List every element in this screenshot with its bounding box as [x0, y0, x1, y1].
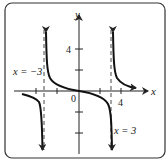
graph-canvas: y x 0 4 4 x = −3 x = 3: [0, 0, 168, 162]
asymptote-right-label: x = 3: [113, 125, 136, 136]
curve-branch-left: [22, 94, 43, 150]
curve-branch-right: [113, 32, 136, 88]
tick-label-x4: 4: [118, 97, 123, 108]
asymptote-left-label: x = −3: [12, 66, 42, 77]
tick-label-y4: 4: [66, 44, 71, 55]
graph-figure: y x 0 4 4 x = −3 x = 3: [0, 0, 168, 162]
origin-label: 0: [71, 93, 76, 104]
x-axis-label: x: [150, 85, 156, 97]
graph-border: [5, 3, 165, 158]
y-axis-label: y: [74, 8, 80, 20]
